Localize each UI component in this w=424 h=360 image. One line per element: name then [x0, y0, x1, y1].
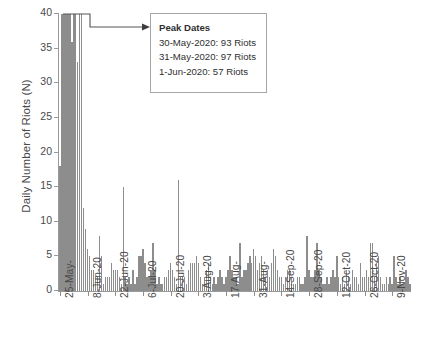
- y-tick-mark: [54, 152, 58, 153]
- y-tick-label: 20: [12, 146, 52, 157]
- x-tick-label: 26-Oct-20: [369, 252, 380, 298]
- riots-bar-chart: Daily Number of Riots (N) 05101520253035…: [0, 0, 424, 360]
- x-tick-label: 14-Sep-20: [285, 250, 296, 298]
- y-tick-mark: [54, 221, 58, 222]
- x-tick-label: 3-Aug-20: [202, 255, 213, 298]
- x-tick-mark: [281, 291, 282, 296]
- x-tick-mark: [171, 291, 172, 296]
- y-tick-label: 30: [12, 76, 52, 87]
- x-axis-ticks: 25-May-8-Jun-2022-Jun-206-Jul-2020-Jul-2…: [59, 291, 411, 351]
- x-tick-label: 20-Jul-20: [175, 255, 186, 298]
- y-tick-label: 10: [12, 215, 52, 226]
- x-tick-mark: [365, 291, 366, 296]
- x-tick-mark: [226, 291, 227, 296]
- y-tick-mark: [54, 13, 58, 14]
- x-tick-label: 9-Nov-20: [396, 255, 407, 298]
- x-tick-mark: [254, 291, 255, 296]
- y-tick-mark: [54, 255, 58, 256]
- x-tick-label: 17-Aug-: [230, 261, 241, 298]
- bar: [409, 284, 410, 291]
- y-tick-mark: [54, 82, 58, 83]
- x-tick-mark: [115, 291, 116, 296]
- x-tick-label: 8-Jun-20: [92, 257, 103, 298]
- y-tick-label: 15: [12, 180, 52, 191]
- x-tick-mark: [337, 291, 338, 296]
- peak-dates-callout: Peak Dates 30-May-2020: 93 Riots 31-May-…: [150, 13, 267, 93]
- callout-line-3: 1-Jun-2020: 57 Riots: [159, 65, 266, 80]
- callout-title: Peak Dates: [159, 21, 266, 36]
- x-tick-mark: [198, 291, 199, 296]
- x-tick-mark: [143, 291, 144, 296]
- callout-line-2: 31-May-2020: 97 Riots: [159, 50, 266, 65]
- y-tick-mark: [54, 290, 58, 291]
- x-tick-label: 28-Sep-20: [313, 250, 324, 298]
- y-tick-mark: [54, 48, 58, 49]
- x-tick-mark: [88, 291, 89, 296]
- y-tick-label: 40: [12, 7, 52, 18]
- x-tick-label: 6-Jul-20: [147, 260, 158, 298]
- x-tick-label: 22-Jun-20: [119, 251, 130, 298]
- y-tick-mark: [54, 117, 58, 118]
- callout-line-1: 30-May-2020: 93 Riots: [159, 36, 266, 51]
- x-tick-label: 31-Aug-: [258, 261, 269, 298]
- y-tick-mark: [54, 186, 58, 187]
- y-tick-label: 25: [12, 111, 52, 122]
- x-tick-label: 12-Oct-20: [341, 252, 352, 298]
- callout-leader-line: [62, 13, 154, 35]
- y-tick-label: 0: [12, 284, 52, 295]
- y-tick-label: 5: [12, 249, 52, 260]
- y-tick-label: 35: [12, 42, 52, 53]
- x-tick-label: 25-May-: [64, 260, 75, 298]
- x-tick-mark: [309, 291, 310, 296]
- x-tick-mark: [392, 291, 393, 296]
- x-tick-mark: [60, 291, 61, 296]
